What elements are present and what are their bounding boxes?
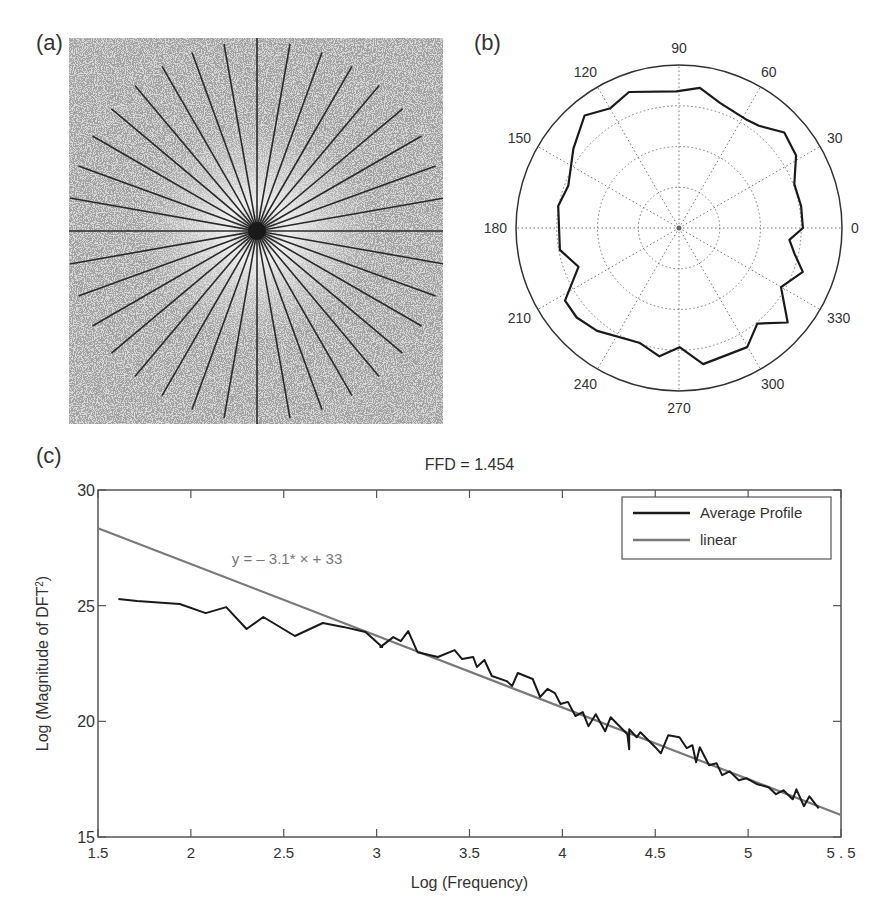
polar-center bbox=[677, 226, 682, 231]
polar-angle-label: 60 bbox=[761, 64, 777, 80]
polar-spoke bbox=[679, 147, 820, 229]
polar-spoke bbox=[598, 228, 680, 369]
polar-profile-line bbox=[558, 88, 803, 364]
polar-angle-label: 0 bbox=[851, 220, 859, 236]
legend-label: linear bbox=[700, 531, 737, 548]
x-tick-label: 3.5 bbox=[459, 844, 480, 861]
x-axis-label: Log (Frequency) bbox=[411, 874, 528, 891]
spectrum-center bbox=[248, 222, 266, 240]
average-profile-line bbox=[118, 599, 818, 808]
polar-plot-panel: 0306090120150180210240270300330 bbox=[484, 40, 859, 416]
spectrum-image-panel bbox=[69, 38, 443, 424]
y-axis-label: Log (Magnitude of DFT2) bbox=[34, 576, 52, 751]
x-tick-label: 2.5 bbox=[273, 844, 294, 861]
polar-spoke bbox=[679, 228, 820, 310]
x-tick-label: 1.5 bbox=[88, 844, 109, 861]
polar-angle-label: 30 bbox=[827, 130, 843, 146]
x-tick-label: 2 bbox=[187, 844, 195, 861]
polar-angle-label: 150 bbox=[508, 130, 532, 146]
x-tick-label: 3 bbox=[372, 844, 380, 861]
y-tick-label: 30 bbox=[77, 482, 95, 499]
polar-spoke bbox=[679, 228, 761, 369]
x-tick-label: 5 bbox=[744, 844, 752, 861]
figure-canvas: 0306090120150180210240270300330 FFD = 1.… bbox=[0, 0, 887, 921]
polar-angle-label: 210 bbox=[508, 310, 532, 326]
legend-label: Average Profile bbox=[700, 504, 802, 521]
polar-angle-label: 270 bbox=[667, 400, 691, 416]
polar-angle-label: 120 bbox=[574, 64, 598, 80]
polar-angle-label: 180 bbox=[484, 220, 508, 236]
polar-angle-label: 300 bbox=[761, 376, 785, 392]
x-tick-label: 4 bbox=[558, 844, 566, 861]
x-tick-label: 4.5 bbox=[645, 844, 666, 861]
polar-spoke bbox=[679, 87, 761, 228]
polar-angle-label: 330 bbox=[827, 310, 851, 326]
y-tick-label: 20 bbox=[77, 713, 95, 730]
y-tick-label: 25 bbox=[77, 598, 95, 615]
loglog-plot-panel: FFD = 1.4541.522.533.544.555 . 515202530… bbox=[34, 456, 856, 891]
polar-angle-label: 240 bbox=[574, 376, 598, 392]
fit-equation-annotation: y = – 3.1* × + 33 bbox=[232, 550, 343, 567]
x-tick-label: 5 . 5 bbox=[826, 844, 855, 861]
legend: Average Profilelinear bbox=[622, 497, 831, 559]
y-tick-label: 15 bbox=[77, 829, 95, 846]
polar-angle-label: 90 bbox=[671, 40, 687, 56]
plot-title: FFD = 1.454 bbox=[425, 456, 514, 473]
